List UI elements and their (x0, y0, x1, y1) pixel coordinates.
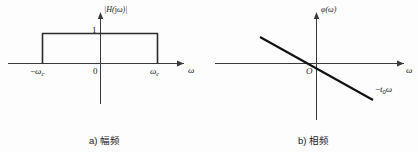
panel-b-plot (209, 0, 418, 152)
y-axis-label-magnitude: |H(jω)| (104, 6, 127, 14)
caption-panel-a: a) 幅频 (0, 133, 209, 147)
x-tick-label-negative-cutoff: −ωc (30, 67, 44, 77)
x-axis-arrow-icon (397, 61, 404, 67)
y-axis-label-phase: φ(ω) (321, 6, 336, 14)
y-axis-arrow-icon (314, 12, 319, 19)
slope-label-negative-t0-omega: −t0ω (375, 85, 392, 95)
x-axis-arrow-icon (177, 61, 184, 67)
x-axis-label-omega: ω (406, 66, 412, 75)
panel-phase-response: φ(ω) O −t0ω ω b) 相频 (209, 0, 418, 152)
panel-magnitude-response: |H(jω)| 1 0 −ωc ωc ω a) 幅频 (0, 0, 209, 152)
origin-label-zero: 0 (93, 67, 98, 76)
x-tick-label-positive-cutoff: ωc (150, 67, 159, 77)
y-axis-group (98, 12, 103, 104)
origin-label-o: O (306, 67, 313, 76)
magnitude-label-text: |H(jω)| (104, 5, 127, 14)
figure-container: |H(jω)| 1 0 −ωc ωc ω a) 幅频 (0, 0, 418, 152)
x-axis-label-omega: ω (188, 66, 194, 75)
caption-panel-b: b) 相频 (209, 133, 418, 147)
y-axis-group (314, 12, 319, 120)
y-tick-label-one: 1 (92, 26, 97, 35)
y-axis-arrow-icon (98, 12, 103, 19)
